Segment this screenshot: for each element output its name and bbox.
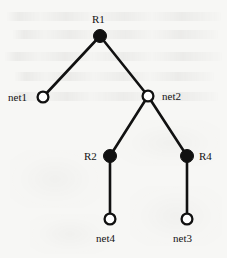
node-net1[interactable] [38, 92, 49, 103]
node-label-R1: R1 [92, 14, 105, 25]
node-net2[interactable] [143, 91, 154, 102]
edge-R1-net2 [100, 36, 148, 96]
node-label-net2: net2 [162, 91, 181, 102]
edge-net2-R4 [148, 96, 187, 156]
node-net4[interactable] [105, 214, 116, 225]
edges-group [43, 36, 187, 219]
node-R2[interactable] [104, 150, 117, 163]
node-label-R2: R2 [84, 151, 97, 162]
node-R1[interactable] [94, 30, 107, 43]
node-label-net1: net1 [8, 92, 27, 103]
edge-R1-net1 [43, 36, 100, 97]
node-net3[interactable] [182, 214, 193, 225]
node-label-net3: net3 [173, 233, 192, 244]
node-R4[interactable] [181, 150, 194, 163]
node-label-net4: net4 [96, 233, 115, 244]
nodes-group [38, 30, 194, 225]
edge-net2-R2 [110, 96, 148, 156]
network-tree-graph [0, 0, 227, 258]
network-tree-figure: R1net1net2R2R4net4net3 [0, 0, 227, 258]
node-label-R4: R4 [199, 151, 212, 162]
